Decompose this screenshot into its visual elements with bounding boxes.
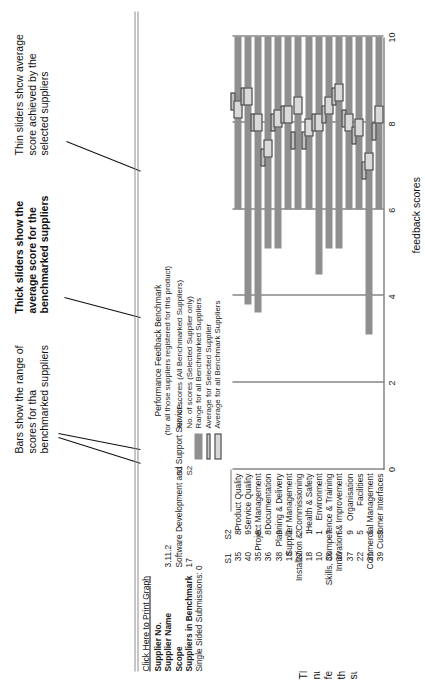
s1-score-count: 22 [354,547,364,565]
range-bar [365,36,372,334]
range-bar [234,36,241,209]
s1-score-count: 36 [262,547,272,565]
avg-all-slider [334,83,343,101]
s2-score-count: 7 [323,525,333,539]
s1-score-count: 39 [374,547,384,565]
meta-key-scope: Scope [173,567,183,671]
s2-score-count: 8 [252,525,262,539]
s2-score-count: 9 [242,525,252,539]
meta-key-single-sided: Single Sided Submissions: 0 [193,565,203,671]
s1-score-count: 36 [323,547,333,565]
avg-selected-slider [290,131,295,149]
benchmark-title-block: Performance Feedback Benchmark (for all … [152,225,173,475]
legend-key-s2: S2 [184,459,194,475]
print-graph-link[interactable]: Click Here to Print Graph [140,575,150,671]
legend-label-s1: No. of scores (All Benchmarked Suppliers… [174,279,184,428]
avg-selected-swatch [206,433,210,459]
x-axis-tick-label: 8 [386,121,396,126]
benchmark-chart: S1 S2 0246810Product Quality358Service Q… [232,23,400,563]
panel-top-rule [134,11,135,671]
x-axis-tick-label: 4 [386,294,396,299]
s1-score-count: 27 [293,547,303,565]
x-axis-tick-label: 0 [386,466,396,471]
s2-score-count: 9 [344,525,354,539]
annotation-thin-sliders: Thin sliders shcw average score achieved… [12,29,50,155]
legend-label-avg-selected: Average for Selected Supplier [203,323,213,428]
avg-all-slider [253,113,262,131]
chart-legend: S1 No. of scores (All Benchmarked Suppli… [174,279,222,475]
range-bar-swatch [194,433,202,459]
s2-score-count: 6 [364,525,374,539]
s1-score-count: 35 [252,547,262,565]
s1-score-count: 18 [303,547,313,565]
meta-key-suppliers-in-benchmark: Suppliers in Benchmark [183,567,193,671]
avg-all-slider [364,152,373,170]
benchmark-title: Performance Feedback Benchmark [152,225,162,475]
s1-score-count: 18 [283,547,293,565]
s1-score-count: 35 [232,547,242,565]
chart-plot-area [232,37,384,469]
legend-label-avg-all: Average for all Benchmark Suppliers [212,300,222,428]
s1-score-count: 40 [242,547,252,565]
legend-item-range: Range for all Benchmarked Suppliers [193,279,203,475]
range-bar [335,36,342,248]
x-axis-tick-label: 10 [386,32,396,42]
meta-value-supplier-name: 3.11.2 [162,544,172,567]
s2-score-count: 9 [374,525,384,539]
range-bar [325,36,332,248]
s2-score-count: 9 [273,525,283,539]
range-bar [244,36,251,304]
legend-label-s2: No. of scores (Selected Supplier only) [184,296,194,428]
legend-item-s1: S1 No. of scores (All Benchmarked Suppli… [174,279,184,475]
gridline [232,381,383,382]
range-bar [274,36,281,248]
legend-label-range: Range for all Benchmarked Suppliers [193,297,203,428]
column-header-s2: S2 [222,529,232,539]
avg-all-slider [354,118,363,136]
range-bar [254,36,261,312]
meta-value-suppliers-in-benchmark: 17 [183,558,193,567]
s2-score-count: 2 [283,525,293,539]
avg-all-slider [293,96,302,114]
s1-score-count: 30 [333,547,343,565]
category-label: Health & Safety [303,473,313,531]
s2-score-count: 5 [354,525,364,539]
s1-score-count: 10 [313,547,323,565]
column-separator [230,469,231,511]
s2-score-count: 1 [313,525,323,539]
category-label: Product Quality [232,473,242,530]
legend-item-avg-selected: Average for Selected Supplier [203,279,213,475]
report-panel: Click Here to Print Graph Supplier No. S… [140,11,410,671]
s2-score-count: 6 [333,525,343,539]
avg-all-slider [263,139,272,157]
meta-key-supplier-no: Supplier No. [152,567,162,671]
s2-score-count: 2 [293,525,303,539]
category-label: Organisation [344,473,354,521]
s1-score-count: 37 [344,547,354,565]
category-label: Environment [313,473,323,520]
meta-key-supplier-name: Supplier Name [162,567,172,671]
avg-selected-slider [371,122,376,140]
s2-score-count: 1 [303,525,313,539]
panel-top-rule-2 [137,11,138,671]
category-label: Facilities [354,473,364,506]
x-axis-tick-label: 2 [386,380,396,385]
range-bar [294,36,301,209]
avg-all-slider [374,105,383,123]
s2-score-count: 8 [232,525,242,539]
s1-score-count: 31 [364,547,374,565]
avg-all-swatch [214,433,221,459]
rotated-report-canvas: This column displays the number of perfo… [0,0,425,685]
category-label: Supplier Management [283,473,293,555]
legend-item-avg-all: Average for all Benchmark Suppliers [212,279,222,475]
legend-item-s2: S2 No. of scores (Selected Supplier only… [184,279,194,475]
category-label: Service Quality [242,473,252,529]
legend-key-s1: S1 [174,459,184,475]
s1-score-count: 38 [273,547,283,565]
avg-all-slider [283,105,292,123]
x-axis-tick-label: 6 [386,207,396,212]
category-label: Documentation [262,473,272,529]
range-bar [315,36,322,274]
annotation-bars-range: Bars show the range of scores for tha be… [12,337,50,453]
avg-all-slider [243,87,252,105]
